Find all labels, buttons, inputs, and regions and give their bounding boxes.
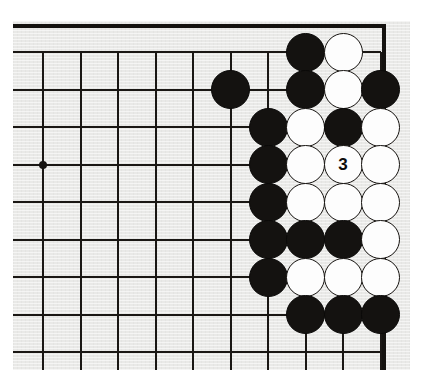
go-stone-black[interactable] (286, 220, 325, 259)
board-edge-top (13, 24, 385, 28)
go-stone-white[interactable] (324, 70, 363, 109)
go-stone-black[interactable] (249, 258, 288, 297)
go-stone-white[interactable] (361, 258, 400, 297)
go-stone-white[interactable] (361, 145, 400, 184)
grid-line-vertical (192, 52, 194, 370)
go-stone-white[interactable] (361, 183, 400, 222)
go-stone-white[interactable] (361, 220, 400, 259)
go-stone-black[interactable] (249, 145, 288, 184)
go-stone-white[interactable] (361, 108, 400, 147)
grid-line-vertical (42, 52, 44, 370)
grid-line-vertical (80, 52, 82, 370)
go-stone-black[interactable] (249, 108, 288, 147)
go-stone-black[interactable] (249, 220, 288, 259)
go-stone-black[interactable] (324, 108, 363, 147)
go-stone-black[interactable] (324, 295, 363, 334)
go-diagram-screenshot: 3 (0, 0, 423, 381)
star-point-icon (39, 161, 47, 169)
go-stone-black[interactable] (361, 295, 400, 334)
go-stone-black[interactable] (361, 70, 400, 109)
go-board-surface[interactable]: 3 (13, 21, 410, 370)
go-stone-white[interactable] (324, 183, 363, 222)
move-number-label: 3 (338, 156, 347, 173)
go-stone-white[interactable] (286, 108, 325, 147)
grid-line-vertical (117, 52, 119, 370)
go-stone-white[interactable] (286, 258, 325, 297)
go-stone-black[interactable] (249, 183, 288, 222)
go-stone-white[interactable] (286, 183, 325, 222)
go-stone-white[interactable] (324, 33, 363, 72)
go-stone-white[interactable] (324, 258, 363, 297)
grid-line-vertical (155, 52, 157, 370)
go-stone-white-labeled[interactable]: 3 (324, 145, 363, 184)
go-stone-black[interactable] (286, 295, 325, 334)
go-stone-black[interactable] (324, 220, 363, 259)
grid-line-horizontal (13, 351, 381, 353)
go-stone-white[interactable] (286, 145, 325, 184)
go-stone-black[interactable] (286, 70, 325, 109)
go-stone-black[interactable] (211, 70, 250, 109)
go-stone-black[interactable] (286, 33, 325, 72)
